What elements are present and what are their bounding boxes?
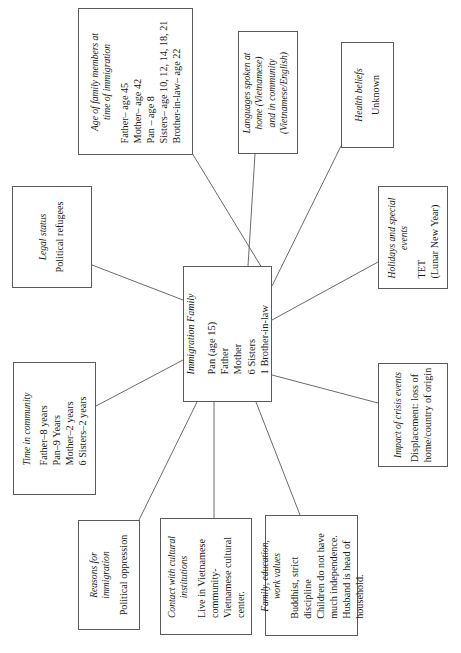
node-body: Buddhist, strictdisciplineChildren do no… bbox=[287, 533, 365, 619]
edge-impact-of-crisis bbox=[272, 375, 378, 403]
node-title-line: immigration bbox=[100, 535, 112, 616]
edge-reasons-for-immigration bbox=[139, 402, 197, 520]
node-title-line: Immigration Family bbox=[184, 294, 197, 375]
node-body: Father– age 45Mother– age 42Pan – age 8S… bbox=[117, 20, 182, 143]
node-content: Time in communityFather–8 yearsPan–9 Yea… bbox=[20, 392, 88, 465]
node-body-line: Husband is head of bbox=[339, 533, 352, 619]
node-title: Health beliefs bbox=[353, 68, 365, 122]
node-body-line: home/country of origin bbox=[421, 368, 434, 463]
node-title-line: (Vietnamese/English) bbox=[278, 52, 290, 134]
edge-holidays bbox=[272, 262, 378, 320]
node-content: Age of family members attime of immigrat… bbox=[89, 20, 183, 143]
node-title-line: Health beliefs bbox=[353, 68, 365, 122]
node-body: Political refugees bbox=[54, 201, 67, 272]
node-body-line: Brother-in-law– age 22 bbox=[169, 20, 182, 143]
node-body-line: Vietnamese cultural bbox=[220, 535, 233, 617]
node-content: Reasons forimmigrationPolitical oppressi… bbox=[88, 535, 130, 616]
node-body-line: 1 Brother-in-law bbox=[257, 294, 270, 375]
node-title-line: and in community bbox=[266, 52, 278, 134]
node-body-line: Political refugees bbox=[54, 201, 67, 272]
node-legal-status[interactable]: Legal statusPolitical refugees bbox=[12, 186, 92, 288]
node-age-of-family-members[interactable]: Age of family members attime of immigrat… bbox=[78, 8, 193, 155]
node-title-line: work values bbox=[270, 533, 282, 619]
node-body-line: community- bbox=[207, 535, 220, 617]
node-reasons-for-immigration[interactable]: Reasons forimmigrationPolitical oppressi… bbox=[78, 520, 140, 630]
node-title-line: Impact of crisis events bbox=[392, 368, 404, 463]
node-title: Contact with culturalinstitutions bbox=[166, 535, 191, 617]
node-title-line: Time in community bbox=[20, 392, 32, 465]
node-body-line: discipline bbox=[300, 533, 313, 619]
edge-languages-spoken bbox=[248, 154, 255, 266]
edge-age-of-family-members bbox=[192, 153, 262, 268]
diagram-canvas: Immigration FamilyPan (age 15)FatherMoth… bbox=[0, 0, 461, 653]
node-impact-of-crisis-events[interactable]: Impact of crisis eventsDisplacement: los… bbox=[378, 363, 448, 467]
edge-time-in-community bbox=[96, 360, 183, 406]
node-body-line: Political oppression bbox=[117, 535, 130, 616]
node-body-line: Live in Vietnamese bbox=[194, 535, 207, 617]
node-body-line: Father– age 45 bbox=[117, 20, 130, 143]
node-body-line: Buddhist, strict bbox=[287, 533, 300, 619]
node-content: Health beliefsUnknown bbox=[353, 68, 382, 122]
node-body-line: Children do not have bbox=[313, 533, 326, 619]
node-body-line: household. bbox=[352, 533, 365, 619]
node-title: Time in community bbox=[20, 392, 32, 465]
node-health-beliefs[interactable]: Health beliefsUnknown bbox=[341, 42, 394, 148]
node-title: Family, education,work values bbox=[258, 533, 283, 619]
node-content: Holidays and specialeventsTET(Lunar New … bbox=[386, 197, 441, 278]
node-title-line: Languages spoken at bbox=[241, 52, 253, 134]
node-body: TET(Lunar New Year) bbox=[414, 197, 440, 278]
node-body-line: Mother bbox=[231, 294, 244, 375]
node-languages-spoken[interactable]: Languages spoken athome (Vietnamese)and … bbox=[238, 31, 298, 154]
node-body: Live in Vietnamesecommunity-Vietnamese c… bbox=[194, 535, 246, 617]
node-body-line: center. bbox=[233, 535, 246, 617]
node-title-line: time of immigration bbox=[101, 20, 113, 143]
node-body-line: (Lunar New Year) bbox=[427, 197, 440, 278]
node-body: Father–8 yearsPan–9 YearsMother–2 years6… bbox=[37, 392, 89, 465]
node-title-line: events bbox=[398, 197, 410, 278]
edge-health-beliefs bbox=[272, 146, 341, 286]
edge-legal-status bbox=[92, 265, 183, 300]
node-body-line: Pan–9 Years bbox=[50, 392, 63, 465]
node-title: Legal status bbox=[37, 201, 49, 272]
node-central[interactable]: Immigration FamilyPan (age 15)FatherMoth… bbox=[183, 266, 272, 402]
node-title-line: Family, education, bbox=[258, 533, 270, 619]
node-title-line: Legal status bbox=[37, 201, 49, 272]
node-time-in-community[interactable]: Time in communityFather–8 yearsPan–9 Yea… bbox=[13, 362, 96, 495]
node-body-line: Mother–2 years bbox=[63, 392, 76, 465]
node-body-line: Father–8 years bbox=[37, 392, 50, 465]
node-content: Impact of crisis eventsDisplacement: los… bbox=[392, 368, 434, 463]
node-body-line: Displacement: loss of bbox=[408, 368, 421, 463]
node-title-line: institutions bbox=[178, 535, 190, 617]
node-title: Holidays and specialevents bbox=[386, 197, 411, 278]
node-title: Reasons forimmigration bbox=[88, 535, 113, 616]
node-body: Displacement: loss ofhome/country of ori… bbox=[408, 368, 434, 463]
node-body-line: Pan – age 8 bbox=[143, 20, 156, 143]
node-title: Immigration Family bbox=[184, 294, 197, 375]
node-body-line: much independence. bbox=[326, 533, 339, 619]
node-body-line: 6 Sisters–2 years bbox=[76, 392, 89, 465]
node-family-education-work-values[interactable]: Family, education,work valuesBuddhist, s… bbox=[265, 515, 358, 636]
node-body-line: Pan (age 15) bbox=[204, 294, 217, 375]
node-content: Immigration FamilyPan (age 15)FatherMoth… bbox=[184, 294, 270, 375]
edge-family-values bbox=[256, 402, 300, 515]
node-body-line: 6 Sisters bbox=[244, 294, 257, 375]
node-title-line: Holidays and special bbox=[386, 197, 398, 278]
node-content: Legal statusPolitical refugees bbox=[37, 201, 66, 272]
node-content: Family, education,work valuesBuddhist, s… bbox=[258, 533, 365, 619]
node-body-line: TET bbox=[414, 197, 427, 278]
node-title-line: home (Vietnamese) bbox=[254, 52, 266, 134]
node-title: Languages spoken athome (Vietnamese)and … bbox=[241, 52, 290, 134]
node-body-line: Father bbox=[217, 294, 230, 375]
node-body-line: Sisters– age 10, 12, 14, 18, 21 bbox=[156, 20, 169, 143]
node-body-line: Mother– age 42 bbox=[130, 20, 143, 143]
node-body: Pan (age 15)FatherMother6 Sisters1 Broth… bbox=[204, 294, 271, 375]
node-body-line: Unknown bbox=[369, 68, 382, 122]
node-holidays-and-special-events[interactable]: Holidays and specialeventsTET(Lunar New … bbox=[378, 186, 448, 289]
node-title-line: Contact with cultural bbox=[166, 535, 178, 617]
node-title: Impact of crisis events bbox=[392, 368, 404, 463]
node-content: Languages spoken athome (Vietnamese)and … bbox=[241, 52, 294, 134]
node-body: Political oppression bbox=[117, 535, 130, 616]
node-title-line: Reasons for bbox=[88, 535, 100, 616]
node-title: Age of family members attime of immigrat… bbox=[89, 20, 114, 143]
node-contact-with-cultural-institutions[interactable]: Contact with culturalinstitutionsLive in… bbox=[160, 518, 252, 635]
